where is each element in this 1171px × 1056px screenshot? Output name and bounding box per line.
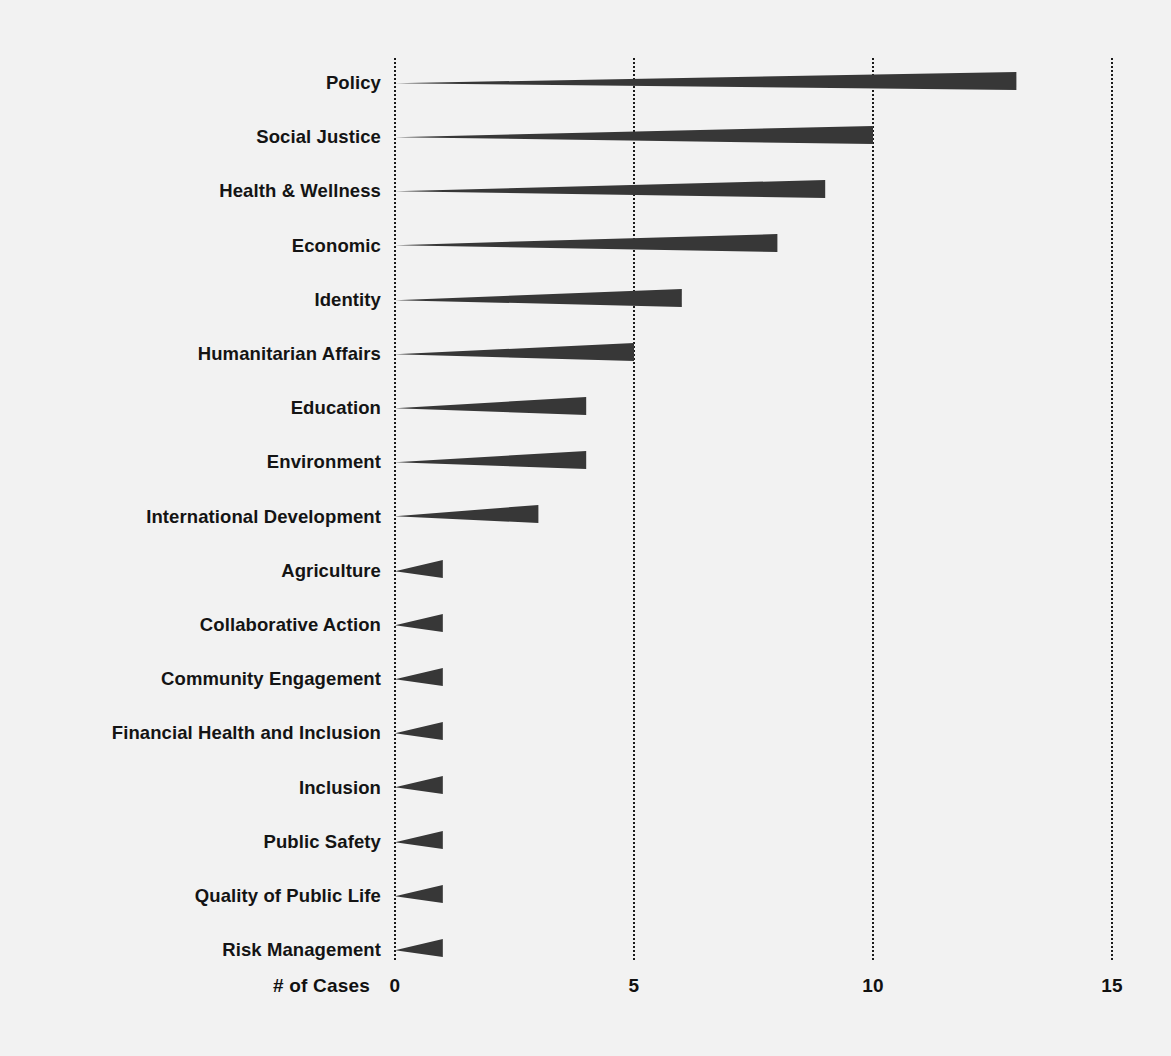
x-tick-label: 5 (629, 975, 640, 997)
x-tick-label: 0 (390, 975, 401, 997)
x-tick-label: 15 (1101, 975, 1123, 997)
x-tick-label: 10 (862, 975, 884, 997)
x-axis-title: # of Cases (273, 975, 370, 997)
x-tick-label-layer: 051015 (0, 0, 1171, 1056)
horizontal-bar-chart: PolicySocial JusticeHealth & WellnessEco… (0, 0, 1171, 1056)
